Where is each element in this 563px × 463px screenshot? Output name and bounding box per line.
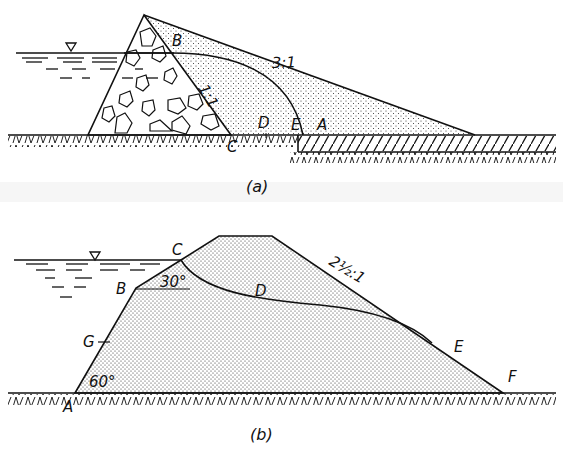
point-d-b: D — [255, 282, 267, 300]
water-level-triangle-icon — [66, 43, 76, 51]
ground-hatch-lower — [290, 152, 556, 163]
point-b: B — [172, 32, 182, 50]
caption-band-a — [0, 182, 563, 202]
figure-a: 3:1 1:1 B C D E A (a) — [0, 15, 563, 202]
point-f-b: F — [508, 368, 517, 386]
ground-hatch-b — [8, 394, 556, 405]
point-e: E — [291, 116, 301, 134]
drainage-blanket — [298, 136, 556, 151]
dam-diagram: 3:1 1:1 B C D E A (a) — [0, 0, 563, 463]
point-e-b: E — [454, 338, 464, 356]
water-level-triangle-icon-b — [90, 252, 100, 260]
caption-a: (a) — [246, 177, 268, 196]
angle-60: 60° — [89, 373, 116, 391]
point-c: C — [227, 138, 238, 156]
point-c-b: C — [172, 241, 183, 259]
point-a-b: A — [62, 398, 73, 416]
point-a: A — [316, 116, 327, 134]
point-g-b: G — [83, 333, 95, 351]
caption-b: (b) — [250, 425, 273, 444]
ground-hatch — [8, 136, 298, 147]
point-d: D — [258, 114, 270, 132]
point-b-b: B — [116, 280, 126, 298]
figure-b: 2½:1 30° 60° C B G A D E F (b) — [8, 236, 556, 444]
angle-30: 30° — [160, 273, 187, 291]
slope-label-earth: 3:1 — [272, 53, 297, 72]
